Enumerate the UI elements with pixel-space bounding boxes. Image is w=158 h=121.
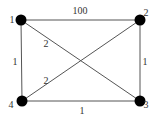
edge-weight-label: 1 (13, 56, 18, 67)
graph-diagram: 10011122 1234 (0, 0, 158, 121)
edge-weight-label: 2 (44, 75, 49, 86)
node-label: 4 (9, 99, 14, 110)
node-label: 2 (144, 7, 149, 18)
edge-1-4 (21, 20, 22, 101)
edge-weight-label: 1 (80, 105, 85, 116)
node-label: 3 (144, 99, 149, 110)
edge-weight-label: 100 (73, 5, 88, 16)
edge-weight-label: 2 (44, 38, 49, 49)
node-1 (16, 15, 27, 26)
node-label: 1 (10, 14, 15, 25)
node-4 (17, 96, 28, 107)
edge-weight-label: 1 (143, 56, 148, 67)
